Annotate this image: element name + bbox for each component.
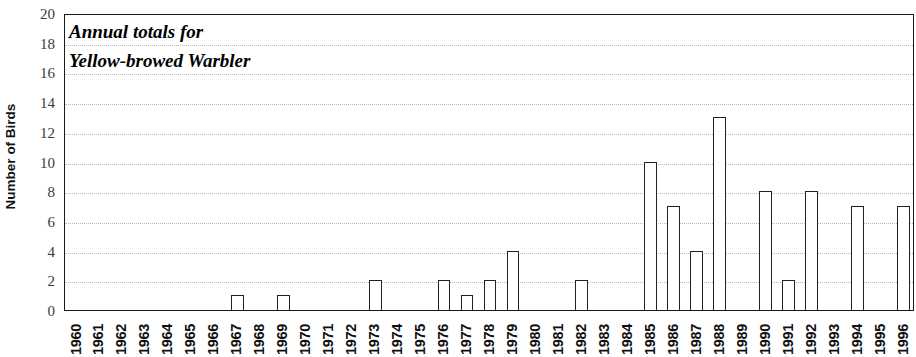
bar	[805, 191, 818, 310]
y-axis-tick-label: 14	[40, 95, 55, 112]
bar	[277, 295, 290, 310]
y-axis-tick-label: 6	[48, 213, 56, 230]
bar	[690, 251, 703, 310]
bar	[438, 280, 451, 310]
bar	[851, 206, 864, 310]
y-axis-title-label: Number of Birds	[4, 103, 19, 209]
bar	[369, 280, 382, 310]
y-axis-title: Number of Birds	[0, 0, 22, 312]
plot-area: Annual totals for Yellow-browed Warbler	[64, 14, 914, 311]
y-axis-tick-label: 8	[48, 184, 56, 201]
y-axis-tick-label: 16	[40, 65, 55, 82]
bar	[484, 280, 497, 310]
y-axis-tick-labels: 02468101214161820	[22, 0, 60, 312]
bar	[231, 295, 244, 310]
y-axis-tick-label: 18	[40, 35, 55, 52]
bar	[461, 295, 474, 310]
bar	[644, 162, 657, 311]
y-axis-tick-label: 20	[40, 6, 55, 23]
bar	[713, 117, 726, 310]
y-axis-tick-label: 12	[40, 124, 55, 141]
bar	[897, 206, 910, 310]
bar	[667, 206, 680, 310]
y-axis-tick-label: 2	[48, 273, 56, 290]
x-axis-tick-label: 1996	[880, 311, 916, 357]
y-axis-tick-label: 4	[48, 243, 56, 260]
bar	[759, 191, 772, 310]
x-axis-tick-labels: 1960196119621963196419651966196719681969…	[64, 311, 914, 357]
bar	[575, 280, 588, 310]
bar	[507, 251, 520, 310]
bar	[782, 280, 795, 310]
bar-chart: Number of Birds 02468101214161820 Annual…	[0, 0, 916, 357]
bars-layer	[65, 15, 913, 310]
y-axis-tick-label: 10	[40, 154, 55, 171]
